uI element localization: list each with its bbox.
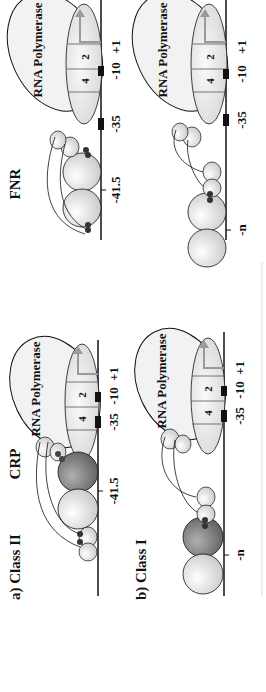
sigma-domain-2: 2 bbox=[202, 386, 214, 392]
fnr-class-i: RNA Polymerase 4 2 -n -35 -10 +1 bbox=[114, 0, 249, 267]
crp-class-ii-label: a) Class II bbox=[7, 534, 24, 600]
promoter-diagram: CRP a) Class II b) Class I RNA Polymeras… bbox=[0, 0, 266, 692]
minus-35-box bbox=[95, 416, 101, 428]
sigma-factor bbox=[65, 344, 99, 460]
contact-dot bbox=[55, 451, 61, 457]
crp-subunit bbox=[58, 489, 98, 529]
alpha-ctd bbox=[79, 543, 97, 561]
contact-dot bbox=[202, 517, 208, 523]
contact-dot bbox=[59, 456, 65, 462]
minus-35-box bbox=[221, 410, 227, 422]
minus-35-box bbox=[223, 114, 229, 126]
fnr-class-ii: RNA Polymerase 4 2 -41.5 -35 -10 +1 bbox=[0, 0, 123, 240]
rnap-label: RNA Polymerase bbox=[28, 341, 43, 436]
sigma-domain-2: 2 bbox=[79, 54, 91, 60]
sigma-domain-2: 2 bbox=[76, 392, 88, 398]
minus-10-box bbox=[95, 392, 101, 402]
contact-dot bbox=[202, 523, 208, 529]
pos-minus-35: -35 bbox=[106, 413, 121, 431]
crp-subunit-activating bbox=[183, 517, 223, 557]
crp-subunit bbox=[183, 554, 223, 594]
diagram-canvas: CRP a) Class II b) Class I RNA Polymeras… bbox=[0, 0, 266, 692]
sigma-domain-4: 4 bbox=[202, 410, 214, 416]
minus-10-box bbox=[221, 386, 227, 396]
rnap-envelope bbox=[0, 0, 121, 127]
sigma-domain-4: 4 bbox=[76, 416, 88, 422]
fnr-subunit bbox=[188, 229, 226, 267]
pos-minus-n: -n bbox=[232, 548, 247, 560]
fnr-subunit-activating bbox=[188, 193, 226, 231]
contact-dot bbox=[85, 227, 91, 233]
pos-minus-10: -10 bbox=[106, 387, 121, 404]
rnap-label: RNA Polymerase bbox=[155, 2, 170, 97]
alpha-ctd bbox=[197, 487, 215, 507]
rnap-label: RNA Polymerase bbox=[154, 333, 169, 428]
contact-dot bbox=[77, 539, 83, 545]
pos-minus-35: -35 bbox=[232, 407, 247, 425]
pos-minus-n: -n bbox=[234, 223, 249, 235]
pos-minus-35: -35 bbox=[108, 115, 123, 133]
contact-dot bbox=[77, 531, 83, 537]
pos-plus-1: +1 bbox=[234, 40, 249, 54]
pos-minus-35: -35 bbox=[234, 111, 249, 129]
sigma-domain-2: 2 bbox=[204, 54, 216, 60]
rnap-label: RNA Polymerase bbox=[30, 2, 45, 97]
minus-35-box bbox=[98, 118, 104, 130]
fnr-subunit-activating bbox=[63, 153, 101, 191]
minus-10-box bbox=[223, 69, 229, 79]
pos-minus-41-5: -41.5 bbox=[108, 176, 123, 204]
alpha-ctd bbox=[175, 435, 191, 453]
contact-dot bbox=[207, 191, 213, 197]
pos-plus-1: +1 bbox=[108, 40, 123, 54]
pos-minus-10: -10 bbox=[232, 381, 247, 398]
sigma-factor bbox=[191, 4, 227, 124]
fnr-subunit bbox=[63, 189, 101, 227]
contact-dot bbox=[85, 152, 91, 158]
contact-dot bbox=[207, 197, 213, 203]
sigma-factor bbox=[191, 338, 225, 454]
sigma-factor bbox=[66, 4, 102, 124]
pos-plus-1: +1 bbox=[232, 361, 247, 375]
pos-minus-41-5: -41.5 bbox=[106, 477, 121, 505]
sigma-domain-4: 4 bbox=[79, 78, 91, 84]
sigma-domain-4: 4 bbox=[204, 78, 216, 84]
pos-plus-1: +1 bbox=[106, 367, 121, 381]
pos-minus-10: -10 bbox=[108, 62, 123, 79]
minus-10-box bbox=[98, 66, 104, 76]
pos-minus-10: -10 bbox=[234, 65, 249, 82]
fnr-title: FNR bbox=[7, 168, 23, 199]
crp-title: CRP bbox=[7, 449, 23, 480]
crp-class-i-label: b) Class I bbox=[133, 539, 150, 600]
